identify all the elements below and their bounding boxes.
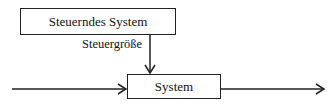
controller-box-label: Steuerndes System xyxy=(49,14,148,30)
system-box: System xyxy=(127,74,221,99)
system-box-label: System xyxy=(155,79,193,95)
control-variable-label: Steuergröße xyxy=(82,37,142,52)
controller-box: Steuerndes System xyxy=(20,8,176,35)
